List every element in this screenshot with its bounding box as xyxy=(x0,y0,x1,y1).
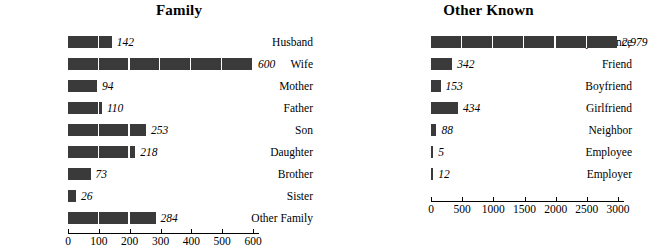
x-axis-tick-label: 300 xyxy=(152,235,169,247)
bar xyxy=(68,190,76,202)
category-label: Sister xyxy=(245,185,318,207)
bar-value-label: 5 xyxy=(433,141,444,163)
x-axis-tick-label: 0 xyxy=(428,203,434,215)
category-label: Employee xyxy=(519,141,637,163)
category-label: Friend xyxy=(519,53,637,75)
x-axis-tick-label: 2500 xyxy=(575,203,598,215)
bar xyxy=(431,102,458,114)
bar-row: Husband142 xyxy=(0,31,318,53)
bar-value-label: 73 xyxy=(91,163,108,185)
bar-row: Daughter218 xyxy=(0,141,318,163)
bar-wrapper xyxy=(68,58,253,70)
x-axis-tick xyxy=(587,197,588,201)
bar xyxy=(68,36,112,48)
bar-row: Boyfriend153 xyxy=(318,75,637,97)
chart-panel-other-known: Other Known Acquaintance2,979Friend342Bo… xyxy=(318,0,637,248)
category-label: Employer xyxy=(519,163,637,185)
bar-row: Brother73 xyxy=(0,163,318,185)
category-label: Mother xyxy=(245,75,318,97)
x-axis-tick xyxy=(525,197,526,201)
bar-value-label: 142 xyxy=(112,31,134,53)
category-label: Brother xyxy=(245,163,318,185)
x-axis-tick-label: 100 xyxy=(90,235,107,247)
bar-wrapper xyxy=(431,58,452,70)
bar-row: Father110 xyxy=(0,97,318,119)
bar xyxy=(68,168,91,180)
bar-value-label: 600 xyxy=(253,53,275,75)
bar-row: Neighbor88 xyxy=(318,119,637,141)
category-label: Neighbor xyxy=(519,119,637,141)
bar-wrapper xyxy=(68,146,135,158)
bar-row: Son253 xyxy=(0,119,318,141)
bar-wrapper xyxy=(431,102,458,114)
chart-panel-family: Family Husband142Wife600Mother94Father11… xyxy=(0,0,318,248)
bar-row: Wife600 xyxy=(0,53,318,75)
x-axis-tick xyxy=(253,229,254,233)
x-axis-tick xyxy=(618,197,619,201)
bar-value-label: 253 xyxy=(146,119,168,141)
bar-wrapper xyxy=(431,36,617,48)
bar-wrapper xyxy=(68,168,91,180)
bar xyxy=(68,102,102,114)
bar xyxy=(68,80,97,92)
x-axis-tick-label: 200 xyxy=(121,235,138,247)
category-label: Daughter xyxy=(245,141,318,163)
bar-value-label: 26 xyxy=(76,185,93,207)
x-axis-tick-label: 2000 xyxy=(544,203,567,215)
chart-title-family: Family xyxy=(0,1,318,19)
x-axis-tick-label: 3000 xyxy=(607,203,630,215)
category-label: Son xyxy=(245,119,318,141)
bar xyxy=(68,124,146,136)
x-axis-tick xyxy=(222,229,223,233)
bar-wrapper xyxy=(68,190,76,202)
bar xyxy=(68,212,156,224)
bar-wrapper xyxy=(68,212,156,224)
x-axis-line xyxy=(431,201,624,202)
bar xyxy=(431,58,452,70)
bar-wrapper xyxy=(68,102,102,114)
chart-title-other-known: Other Known xyxy=(318,1,637,19)
bar-value-label: 153 xyxy=(441,75,463,97)
bar-wrapper xyxy=(68,80,97,92)
x-axis-tick xyxy=(99,229,100,233)
bar-row: Girlfriend434 xyxy=(318,97,637,119)
bar-row: Mother94 xyxy=(0,75,318,97)
bar xyxy=(68,146,135,158)
plot-area-other-known: Acquaintance2,979Friend342Boyfriend153Gi… xyxy=(318,26,637,248)
x-axis-tick-label: 1000 xyxy=(482,203,505,215)
x-axis-tick-label: 600 xyxy=(244,235,261,247)
x-axis-tick-label: 500 xyxy=(454,203,471,215)
x-axis-tick xyxy=(191,229,192,233)
category-label: Boyfriend xyxy=(519,75,637,97)
bar-value-label: 342 xyxy=(452,53,474,75)
bar xyxy=(431,36,617,48)
bar-row: Other Family284 xyxy=(0,207,318,229)
x-axis-tick xyxy=(161,229,162,233)
bar-value-label: 12 xyxy=(433,163,450,185)
category-label: Other Family xyxy=(245,207,318,229)
category-label: Husband xyxy=(245,31,318,53)
category-label: Father xyxy=(245,97,318,119)
bar-wrapper xyxy=(431,80,441,92)
bar xyxy=(431,80,441,92)
bar-row: Friend342 xyxy=(318,53,637,75)
x-axis-tick-label: 0 xyxy=(65,235,71,247)
x-axis-tick xyxy=(130,229,131,233)
bar-value-label: 218 xyxy=(135,141,157,163)
bar-value-label: 94 xyxy=(97,75,114,97)
bar-value-label: 2,979 xyxy=(617,31,648,53)
bar-value-label: 88 xyxy=(436,119,453,141)
bar-row: Acquaintance2,979 xyxy=(318,31,637,53)
category-label: Girlfriend xyxy=(519,97,637,119)
bar xyxy=(68,58,253,70)
x-axis-tick-label: 400 xyxy=(183,235,200,247)
bar-row: Employer12 xyxy=(318,163,637,185)
plot-area-family: Husband142Wife600Mother94Father110Son253… xyxy=(0,26,318,248)
x-axis-tick xyxy=(431,197,432,201)
bar-value-label: 434 xyxy=(458,97,480,119)
bar-row: Employee5 xyxy=(318,141,637,163)
x-axis-tick xyxy=(493,197,494,201)
bar-wrapper xyxy=(68,124,146,136)
x-axis-tick-label: 500 xyxy=(214,235,231,247)
x-axis-tick xyxy=(462,197,463,201)
